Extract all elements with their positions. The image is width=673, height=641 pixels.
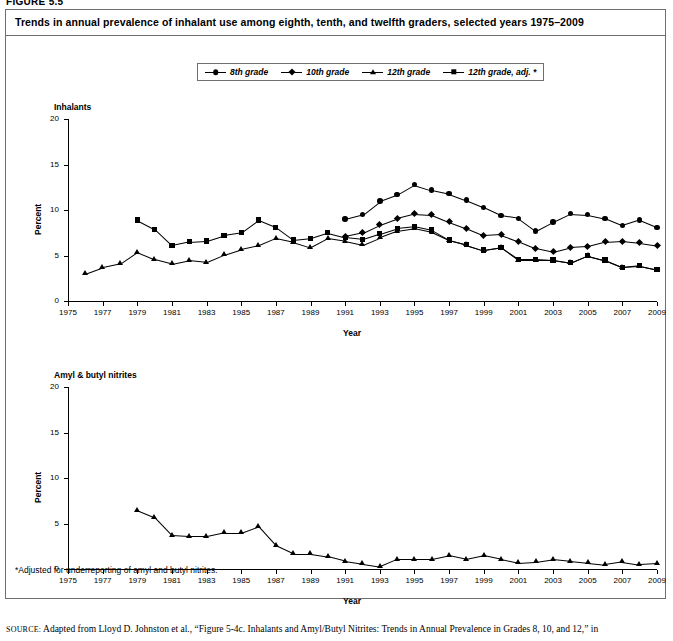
data-point-marker — [602, 257, 607, 262]
x-axis-tick — [518, 302, 519, 306]
x-axis-tick — [103, 302, 104, 306]
data-point-marker — [394, 556, 400, 561]
data-point-marker — [516, 257, 521, 262]
x-axis-tick-label: 1987 — [261, 308, 291, 317]
data-point-marker — [169, 243, 174, 248]
y-axis-tick-label: 10 — [43, 473, 59, 482]
x-axis-tick — [345, 302, 346, 306]
chart-1-title: Inhalants — [54, 102, 91, 112]
chart-title: Trends in annual prevalence of inhalant … — [15, 16, 584, 28]
x-axis-tick — [449, 570, 450, 574]
x-axis-tick-label: 1975 — [53, 308, 83, 317]
x-axis-tick — [414, 302, 415, 306]
x-axis-tick — [657, 570, 658, 574]
x-axis-tick — [137, 302, 138, 306]
data-point-marker — [498, 245, 503, 250]
x-axis-tick-label: 2001 — [503, 576, 533, 585]
x-axis-tick-label: 2003 — [538, 576, 568, 585]
x-axis-tick-label: 2001 — [503, 308, 533, 317]
data-point-marker — [343, 235, 348, 240]
data-point-marker — [325, 553, 331, 558]
source-note: SOURCE: Adapted from Lloyd D. Johnston e… — [6, 624, 598, 634]
x-axis-tick-label: 1981 — [157, 308, 187, 317]
x-axis-tick — [553, 570, 554, 574]
x-axis-tick-label: 1995 — [399, 576, 429, 585]
footnote: *Adjusted for underreporting of amyl and… — [15, 565, 218, 575]
data-point-marker — [169, 532, 175, 537]
data-point-marker — [584, 243, 591, 250]
y-axis-tick — [64, 433, 68, 434]
data-point-marker — [221, 529, 227, 534]
data-point-marker — [308, 236, 313, 241]
x-axis-tick-label: 1989 — [296, 308, 326, 317]
data-point-marker — [447, 237, 452, 242]
legend-label: 12th grade — [387, 67, 430, 77]
y-axis — [68, 119, 69, 302]
y-axis-tick-label: 10 — [43, 205, 59, 214]
x-axis-tick-label: 2009 — [642, 308, 672, 317]
data-point-marker — [498, 556, 504, 561]
x-axis-tick — [518, 570, 519, 574]
data-point-marker — [411, 210, 418, 217]
x-axis-tick — [622, 302, 623, 306]
data-point-marker — [377, 563, 383, 568]
data-point-marker — [654, 560, 660, 565]
data-point-marker — [464, 242, 469, 247]
y-axis-tick — [64, 210, 68, 211]
data-point-marker — [602, 238, 609, 245]
figure-label: FIGURE 5.5 — [6, 0, 63, 7]
data-point-marker — [654, 225, 659, 230]
x-axis-tick-label: 1979 — [122, 308, 152, 317]
data-point-marker — [619, 558, 625, 563]
data-point-marker — [585, 559, 591, 564]
data-point-marker — [134, 507, 140, 512]
x-axis-tick — [276, 570, 277, 574]
data-point-marker — [412, 224, 417, 229]
data-point-marker — [429, 556, 435, 561]
y-axis-tick-label: 5 — [43, 519, 59, 528]
x-axis-tick-label: 1989 — [296, 576, 326, 585]
x-axis-tick — [380, 302, 381, 306]
x-axis-tick — [484, 302, 485, 306]
x-axis-tick — [449, 302, 450, 306]
x-axis-tick — [588, 570, 589, 574]
data-point-marker — [360, 212, 365, 217]
x-axis-tick-label: 1991 — [330, 576, 360, 585]
x-axis-tick-label: 1997 — [434, 576, 464, 585]
data-point-marker — [186, 533, 192, 538]
y-axis-tick — [64, 119, 68, 120]
y-axis-tick-label: 15 — [43, 428, 59, 437]
circle-marker-icon — [205, 68, 226, 77]
x-axis-tick — [276, 302, 277, 306]
x-axis-tick-label: 1979 — [122, 576, 152, 585]
data-point-marker — [602, 561, 608, 566]
x-axis-tick — [241, 570, 242, 574]
data-point-marker — [239, 230, 244, 235]
x-axis-tick — [172, 302, 173, 306]
data-point-marker — [151, 256, 157, 261]
legend-item-10th-grade: 10th grade — [281, 67, 349, 77]
x-axis-tick-label: 1999 — [469, 308, 499, 317]
data-point-marker — [619, 238, 626, 245]
data-point-marker — [568, 211, 573, 216]
data-point-marker — [342, 558, 348, 563]
chart-2-title: Amyl & butyl nitrites — [54, 370, 137, 380]
data-point-marker — [533, 558, 539, 563]
x-axis-tick-label: 2007 — [607, 308, 637, 317]
data-point-marker — [169, 260, 175, 265]
data-point-marker — [567, 244, 574, 251]
data-point-marker — [117, 260, 123, 265]
data-point-marker — [516, 216, 521, 221]
data-point-marker — [429, 227, 434, 232]
chart-1-y-axis-label: Percent — [33, 204, 43, 235]
chart-legend: 8th grade 10th grade 12th grade 12th gra… — [197, 63, 544, 81]
data-point-marker — [377, 198, 382, 203]
data-point-marker — [255, 242, 261, 247]
data-point-marker — [187, 239, 192, 244]
data-point-marker — [533, 257, 538, 262]
data-point-marker — [636, 239, 643, 246]
x-axis-tick-label: 1987 — [261, 576, 291, 585]
x-axis-tick-label: 1991 — [330, 308, 360, 317]
x-axis-tick-label: 1993 — [365, 576, 395, 585]
x-axis-tick — [311, 570, 312, 574]
